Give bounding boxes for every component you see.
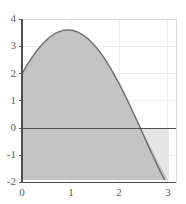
chart-plot-area — [0, 0, 186, 204]
x-tick-label-2: 2 — [111, 187, 127, 198]
chart-container: 4 3 2 1 0 -1 -2 0 1 2 3 — [0, 0, 186, 204]
y-tick-label-2: 2 — [0, 68, 16, 79]
x-tick-label-3: 3 — [160, 187, 176, 198]
area-fill-above-axis — [22, 30, 141, 128]
x-tick-label-1: 1 — [63, 187, 79, 198]
y-tick-label-minus-2: -2 — [0, 176, 16, 187]
x-tick-label-0: 0 — [14, 187, 30, 198]
y-tick-label-minus-1: -1 — [0, 149, 16, 160]
y-tick-label-4: 4 — [0, 13, 16, 24]
y-tick-label-1: 1 — [0, 95, 16, 106]
y-tick-label-3: 3 — [0, 40, 16, 51]
y-tick-label-0: 0 — [0, 122, 16, 133]
